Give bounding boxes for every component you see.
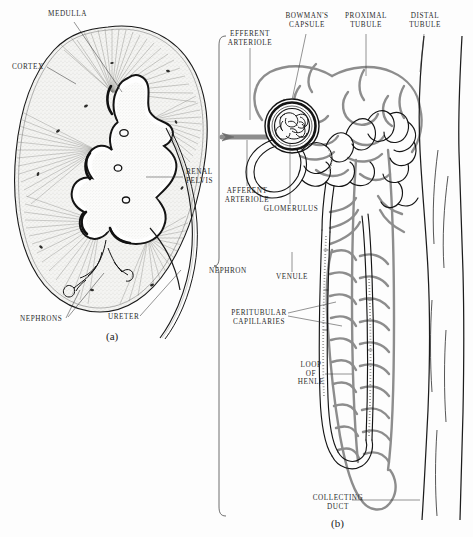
label-medulla: MEDULLA xyxy=(48,10,87,19)
label-distal-tubule: DISTAL TUBULE xyxy=(402,12,448,29)
label-nephrons: NEPHRONS xyxy=(20,315,62,324)
label-peritubular-capillaries: PERITUBULAR CAPILLARIES xyxy=(228,309,290,326)
nephron-bracket xyxy=(214,36,226,516)
label-cortex: CORTEX xyxy=(12,63,44,72)
anatomy-figure: MEDULLA CORTEX RENAL PELVIS NEPHRONS URE… xyxy=(0,0,473,537)
tubule-lumen-shading xyxy=(323,150,370,436)
label-loop-of-henle: LOOP OF HENLE xyxy=(296,361,326,387)
label-proximal-tubule: PROXIMAL TUBULE xyxy=(340,12,392,29)
panel-a-id: (a) xyxy=(106,330,118,342)
label-nephron: NEPHRON xyxy=(209,267,247,276)
collecting-duct xyxy=(419,36,464,520)
label-ureter: URETER xyxy=(108,313,139,322)
label-glomerulus: GLOMERULUS xyxy=(262,205,320,214)
bowmans-capsule xyxy=(265,99,319,153)
panel-b-id: (b) xyxy=(331,517,344,529)
panel-b-nephron xyxy=(214,34,464,520)
label-renal-pelvis: RENAL PELVIS xyxy=(186,168,213,185)
leader-lines-panel-b xyxy=(247,34,424,500)
label-bowmans-capsule: BOWMAN'S CAPSULE xyxy=(281,12,333,29)
label-collecting-duct: COLLECTING DUCT xyxy=(312,494,364,511)
peritubular-capillary-network xyxy=(222,64,422,510)
label-venule: VENULE xyxy=(270,273,314,282)
leader-distal-tubule xyxy=(420,34,424,72)
label-afferent-arteriole: AFFERENT ARTERIOLE xyxy=(219,187,275,204)
label-efferent-arteriole: EFFERENT ARTERIOLE xyxy=(222,30,278,47)
leader-peritubular-1 xyxy=(288,302,336,313)
